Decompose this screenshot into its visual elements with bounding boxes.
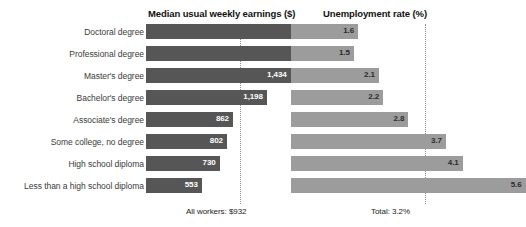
category-label: Some college, no degree (0, 137, 144, 147)
unemployment-value-label: 2.2 (368, 92, 379, 101)
unemployment-bar: 1.6 (291, 24, 358, 39)
earnings-value-label: 730 (203, 158, 216, 167)
unemployment-bar: 1.5 (291, 46, 354, 61)
total-unemployment-note: Total: 3.2% (371, 207, 410, 216)
earnings-value-label: 862 (216, 114, 229, 123)
unemployment-value-label: 1.6 (343, 26, 354, 35)
earnings-bar: 730 (146, 156, 220, 171)
chart-row: Less than a high school diploma5535.6 (0, 176, 450, 197)
earnings-value-label: 1,434 (267, 70, 287, 79)
chart-rows: Doctoral degree1,8251.6Professional degr… (0, 22, 450, 198)
earnings-bar: 553 (146, 178, 202, 193)
chart-row: Associate's degree8622.8 (0, 110, 450, 131)
chart-row: Professional degree1,8841.5 (0, 44, 450, 65)
unemployment-value-label: 1.5 (339, 48, 350, 57)
unemployment-bar: 2.1 (291, 68, 379, 83)
unemployment-bar: 2.8 (291, 112, 408, 127)
category-label: Associate's degree (0, 115, 144, 125)
category-label: Professional degree (0, 49, 144, 59)
earnings-value-label: 802 (210, 136, 223, 145)
chart-row: Doctoral degree1,8251.6 (0, 22, 450, 43)
category-label: Less than a high school diploma (0, 181, 144, 191)
category-label: High school diploma (0, 159, 144, 169)
unemployment-bar: 3.7 (291, 134, 446, 149)
earnings-bar: 1,434 (146, 68, 291, 83)
chart-row: High school diploma7304.1 (0, 154, 450, 175)
unemployment-value-label: 2.8 (393, 114, 404, 123)
unemployment-bar: 5.6 (291, 178, 526, 193)
earnings-value-label: 553 (185, 180, 198, 189)
category-label: Bachelor's degree (0, 93, 144, 103)
unemployment-value-label: 4.1 (448, 158, 459, 167)
earnings-bar: 1,198 (146, 90, 267, 105)
chart-row: Some college, no degree8023.7 (0, 132, 450, 153)
unemployment-column-header: Unemployment rate (%) (323, 8, 427, 19)
chart-row: Master's degree1,4342.1 (0, 66, 450, 87)
earnings-value-label: 1,198 (243, 92, 263, 101)
unemployment-value-label: 2.1 (364, 70, 375, 79)
category-label: Master's degree (0, 71, 144, 81)
chart-row: Bachelor's degree1,1982.2 (0, 88, 450, 109)
unemployment-value-label: 5.6 (511, 180, 522, 189)
unemployment-bar: 4.1 (291, 156, 463, 171)
earnings-column-header: Median usual weekly earnings ($) (148, 8, 295, 19)
category-label: Doctoral degree (0, 27, 144, 37)
earnings-bar: 862 (146, 112, 233, 127)
all-workers-note: All workers: $932 (186, 207, 247, 216)
unemployment-value-label: 3.7 (431, 136, 442, 145)
earnings-bar: 802 (146, 134, 227, 149)
unemployment-bar: 2.2 (291, 90, 383, 105)
